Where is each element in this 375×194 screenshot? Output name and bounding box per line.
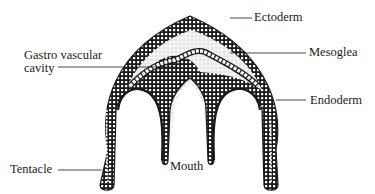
endoderm-label: Endoderm (310, 93, 362, 107)
right-inner-arch (214, 89, 260, 160)
mouth-label: Mouth (170, 159, 203, 173)
ectoderm-label: Ectoderm (254, 10, 303, 24)
gastro-vascular-label-line2: cavity (24, 61, 55, 75)
cnidarian-diagram: Ectoderm Mesoglea Endoderm Gastro vascul… (0, 0, 375, 194)
gastro-vascular-label-line1: Gastro vascular (24, 48, 102, 62)
mesoglea-label: Mesoglea (309, 45, 358, 59)
left-inner-arch (118, 89, 162, 160)
tentacle-label: Tentacle (10, 162, 52, 176)
